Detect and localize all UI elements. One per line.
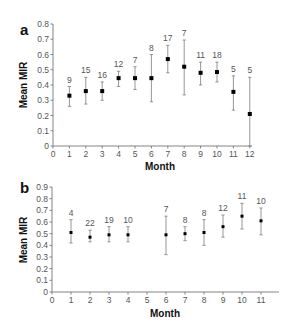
sample-size-label: 22 [85, 218, 95, 228]
y-tick-label: 0 [43, 287, 48, 297]
data-point [166, 57, 170, 61]
sample-size-label: 7 [164, 204, 169, 214]
sample-size-label: 12 [218, 203, 228, 213]
chart-canvas: a00.10.20.30.40.50.60.70.801234567891011… [0, 0, 297, 328]
data-point [100, 89, 104, 93]
y-tick-label: 0.7 [36, 205, 48, 215]
data-point [67, 94, 71, 98]
sample-size-label: 7 [133, 55, 138, 65]
panel-label: a [20, 21, 29, 38]
x-tick-label: 3 [107, 295, 112, 305]
x-tick-label: 7 [183, 295, 188, 305]
x-tick-label: 3 [100, 149, 105, 159]
y-tick-label: 0.6 [36, 217, 48, 227]
data-point [149, 76, 153, 80]
sample-size-label: 8 [149, 43, 154, 53]
sample-size-label: 10 [123, 215, 133, 225]
x-tick-label: 12 [245, 149, 255, 159]
y-tick-label: 0.1 [36, 275, 48, 285]
panel-label: b [20, 179, 29, 196]
x-tick-label: 7 [165, 149, 170, 159]
sample-size-label: 10 [256, 196, 266, 206]
y-tick-label: 0.5 [36, 229, 48, 239]
y-tick-label: 0.2 [36, 264, 48, 274]
x-tick-label: 4 [126, 295, 131, 305]
sample-size-label: 4 [69, 208, 74, 218]
sample-size-label: 5 [247, 65, 252, 75]
sample-size-label: 8 [202, 208, 207, 218]
y-tick-label: 0.3 [36, 252, 48, 262]
x-axis-title: Month [145, 161, 175, 172]
x-tick-label: 0 [51, 149, 56, 159]
x-tick-label: 1 [69, 295, 74, 305]
sample-size-label: 5 [231, 64, 236, 74]
y-tick-label: 0.2 [37, 111, 49, 121]
data-point [203, 231, 206, 234]
y-axis-title: Mean MIR [18, 216, 29, 263]
data-point [241, 215, 244, 218]
x-tick-label: 10 [212, 149, 222, 159]
x-tick-label: 10 [237, 295, 247, 305]
sample-size-label: 17 [163, 33, 173, 43]
y-tick-label: 0.5 [37, 65, 49, 75]
x-tick-label: 2 [88, 295, 93, 305]
data-point [184, 232, 187, 235]
y-tick-label: 0.8 [36, 194, 48, 204]
data-point [165, 233, 168, 236]
figure: a00.10.20.30.40.50.60.70.801234567891011… [0, 0, 297, 328]
sample-size-label: 8 [183, 215, 188, 225]
sample-size-label: 11 [196, 50, 205, 60]
y-axis-title: Mean MIR [18, 61, 29, 108]
sample-size-label: 16 [97, 70, 107, 80]
data-point [248, 112, 252, 116]
sample-size-label: 7 [182, 28, 187, 38]
y-tick-label: 0.1 [37, 126, 49, 136]
x-tick-label: 8 [202, 295, 207, 305]
x-axis-title: Month [150, 308, 180, 319]
x-tick-label: 9 [221, 295, 226, 305]
x-tick-label: 11 [257, 295, 266, 305]
x-tick-label: 4 [116, 149, 121, 159]
y-tick-label: 0.7 [37, 34, 49, 44]
data-point [108, 233, 111, 236]
x-tick-label: 8 [182, 149, 187, 159]
data-point [182, 65, 186, 69]
y-tick-label: 0.6 [37, 50, 49, 60]
data-point [84, 89, 88, 93]
sample-size-label: 19 [104, 215, 114, 225]
sample-size-label: 18 [212, 50, 222, 60]
sample-size-label: 9 [67, 75, 72, 85]
x-tick-label: 11 [229, 149, 238, 159]
x-tick-label: 9 [198, 149, 203, 159]
x-tick-label: 5 [145, 295, 150, 305]
data-point [133, 76, 137, 80]
y-tick-label: 0.9 [36, 182, 48, 192]
x-tick-label: 5 [133, 149, 138, 159]
data-point [70, 231, 73, 234]
y-tick-label: 0.3 [37, 95, 49, 105]
data-point [127, 233, 130, 236]
x-tick-label: 0 [50, 295, 55, 305]
data-point [117, 76, 121, 80]
x-tick-label: 6 [149, 149, 154, 159]
sample-size-label: 15 [81, 65, 91, 75]
y-tick-label: 0.4 [37, 80, 49, 90]
data-point [222, 225, 225, 228]
data-point [89, 236, 92, 239]
x-tick-label: 1 [67, 149, 72, 159]
sample-size-label: 11 [238, 191, 247, 201]
y-tick-label: 0 [44, 141, 49, 151]
x-tick-label: 2 [83, 149, 88, 159]
data-point [260, 219, 263, 222]
data-point [215, 70, 219, 74]
x-tick-label: 6 [164, 295, 169, 305]
y-tick-label: 0.4 [36, 240, 48, 250]
y-tick-label: 0.8 [37, 19, 49, 29]
sample-size-label: 12 [114, 59, 124, 69]
data-point [231, 90, 235, 94]
data-point [199, 71, 203, 75]
